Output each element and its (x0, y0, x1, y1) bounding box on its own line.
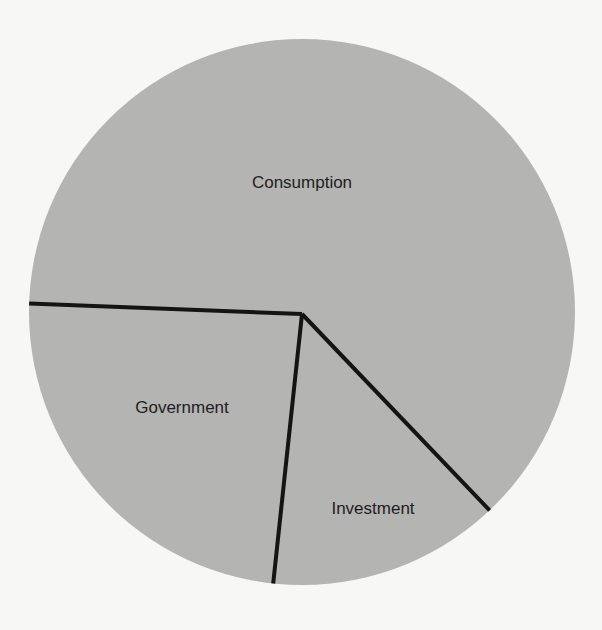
pie-chart: Consumption Government Investment (0, 0, 602, 630)
slice-label-government: Government (135, 398, 229, 417)
slice-label-investment: Investment (331, 499, 414, 518)
slice-label-consumption: Consumption (252, 173, 352, 192)
